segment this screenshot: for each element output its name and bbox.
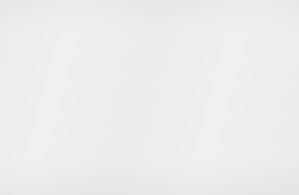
computer-server <box>108 19 171 69</box>
label-node-top-right: NODE <box>255 76 283 86</box>
bus-terminator-left <box>5 102 15 112</box>
bus-terminator-right <box>281 102 291 112</box>
computer-node-top-left <box>9 19 72 69</box>
computer-node-bottom-right <box>169 143 232 193</box>
label-connecting-medium: CONNECTING MEDIUM <box>101 111 197 121</box>
computer-node-top-right <box>211 25 274 75</box>
computer-node-bottom-left <box>57 141 120 191</box>
network-topology-diagram: SERVER CONNECTING MEDIUM NODE NODE NODE … <box>0 0 299 195</box>
label-node-top-left: NODE <box>7 70 35 80</box>
label-server: SERVER <box>115 5 158 15</box>
diagram-canvas <box>0 0 299 195</box>
label-node-bottom-right: NODE <box>228 150 256 160</box>
bus-backbone-group <box>5 102 291 112</box>
label-node-bottom-left: NODE <box>38 148 66 158</box>
